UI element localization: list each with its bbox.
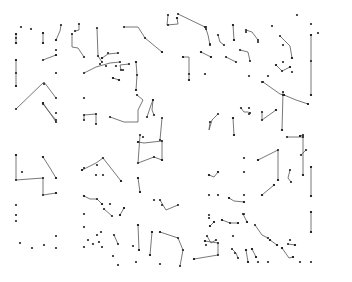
node-point [269,239,271,241]
connector-line [270,240,277,245]
node-point [136,94,138,96]
connector-line [110,95,143,122]
node-point [307,103,309,105]
node-point [255,256,257,258]
connector-line [226,57,236,62]
connector-line [43,104,56,122]
node-point [310,231,312,233]
connector-line [276,65,290,71]
node-point [137,162,139,164]
node-point [103,208,105,210]
node-point [135,261,137,263]
node-point [281,70,283,72]
node-point [153,199,155,201]
connector-line [233,25,234,40]
connector-line [150,232,152,255]
connector-line [84,114,96,124]
node-point [273,184,275,186]
connector-line [72,34,84,57]
node-point [231,248,233,250]
node-point [277,149,279,151]
node-point [119,214,121,216]
connector-line [282,248,293,258]
node-point [137,177,139,179]
node-point [310,195,312,197]
node-point [42,59,44,61]
node-point [292,256,294,258]
node-point [276,244,278,246]
node-point [137,141,139,143]
node-point [97,55,99,57]
node-point [289,239,291,241]
node-point [100,231,102,233]
node-point [83,119,85,121]
node-point [101,246,103,248]
node-point [281,247,283,249]
node-point [204,240,206,242]
node-point [248,107,250,109]
node-point [310,23,312,25]
node-point [55,247,57,249]
node-point [55,121,57,123]
node-point [43,244,45,246]
node-point [177,13,179,15]
node-point [281,129,283,131]
node-point [200,51,202,53]
node-point [101,61,103,63]
node-point [20,26,22,28]
node-point [161,140,163,142]
connector-line [16,155,56,195]
node-point [286,136,288,138]
node-point [243,157,245,159]
node-point [254,224,256,226]
connector-line [246,250,248,262]
connector-line [206,29,210,45]
connector-line [160,118,162,140]
node-point [177,237,179,239]
node-point [96,27,98,29]
node-point [290,181,292,183]
node-point [248,113,250,115]
node-point [161,159,163,161]
node-point [225,56,227,58]
node-point [205,244,207,246]
node-point [291,71,293,73]
node-point [83,226,85,228]
node-point [193,258,195,260]
node-point [144,37,146,39]
node-point [282,91,284,93]
node-point [248,75,250,77]
node-point [176,17,178,19]
connector-line [233,118,234,135]
node-point [19,242,21,244]
node-point [96,234,98,236]
connector-line [43,103,56,120]
node-point [310,261,312,263]
node-point [317,32,319,34]
node-point [55,119,57,121]
node-point [74,30,76,32]
node-point [271,25,273,27]
node-point [120,69,122,71]
connector-line [209,172,218,177]
node-point [310,166,312,168]
node-point [109,116,111,118]
node-point [107,52,109,54]
node-point [188,73,190,75]
node-point [234,252,236,254]
connector-line [138,225,139,250]
connector-line [124,27,162,52]
node-point [115,65,117,67]
connector-line [243,214,247,222]
node-point [96,164,98,166]
node-point [146,116,148,118]
node-point [42,102,44,104]
connector-line [114,235,118,244]
node-point [294,244,296,246]
node-point [257,261,259,263]
connector-line [84,196,102,204]
node-point [101,203,103,205]
node-point [120,180,122,182]
segment-layer [16,14,311,266]
node-point [208,217,210,219]
